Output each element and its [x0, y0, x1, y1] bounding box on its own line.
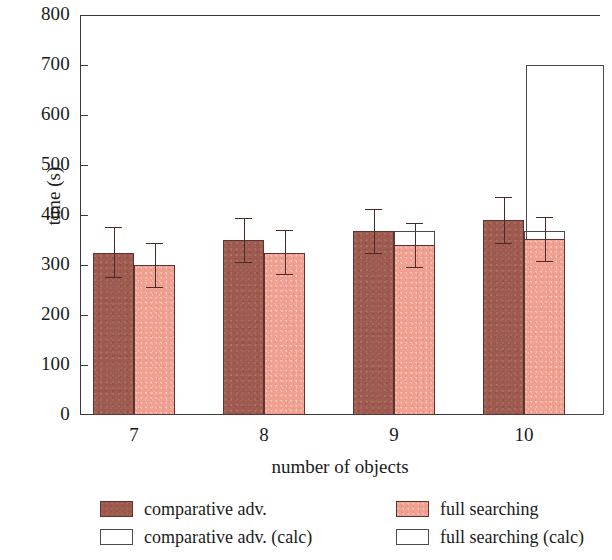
y-tick-mark [80, 315, 88, 316]
legend-entry[interactable]: comparative adv. (calc) [100, 528, 312, 546]
y-tick-mark [80, 15, 81, 23]
error-bar [362, 209, 386, 254]
y-tick-label: 700 [18, 53, 70, 75]
bar-full-searching-calc-outline [394, 231, 435, 245]
legend-label: full searching [440, 500, 538, 518]
error-bar-cap-top [146, 243, 163, 244]
x-tick-label: 8 [234, 424, 294, 446]
y-tick-label: 0 [18, 403, 70, 425]
error-bar [273, 230, 297, 275]
legend-entry[interactable]: comparative adv. [100, 500, 267, 518]
error-bar-cap-top [276, 230, 293, 231]
error-bar [232, 218, 256, 263]
error-bar-cap-bottom [406, 267, 423, 268]
error-bar [102, 227, 126, 278]
error-bar-cap-top [105, 227, 122, 228]
bar-full-searching [524, 239, 565, 415]
error-bar-cap-top [365, 209, 382, 210]
bar-full-searching [134, 265, 175, 415]
error-bar-cap-bottom [146, 287, 163, 288]
bar-full-searching [394, 245, 435, 415]
error-bar-stem [114, 227, 115, 278]
y-tick-mark [80, 215, 88, 216]
y-tick-mark [80, 165, 88, 166]
legend-swatch-open [100, 529, 133, 545]
error-bar-cap-bottom [536, 261, 553, 262]
error-bar-cap-top [406, 223, 423, 224]
y-tick-mark [80, 65, 88, 66]
y-tick-label: 400 [18, 203, 70, 225]
error-bar-cap-bottom [276, 274, 293, 275]
y-tick-mark [80, 115, 88, 116]
y-tick-label: 100 [18, 353, 70, 375]
error-bar-cap-top [235, 218, 252, 219]
bar-comparative-adv [353, 231, 394, 415]
error-bar-cap-top [495, 197, 512, 198]
legend-swatch-light [396, 501, 429, 517]
legend-swatch-dark [100, 501, 133, 517]
error-bar-stem [244, 218, 245, 263]
error-bar [492, 197, 516, 244]
error-bar-stem [374, 209, 375, 254]
chart-legend: comparative adv.full searchingcomparativ… [100, 500, 600, 556]
error-bar-stem [415, 223, 416, 268]
error-bar-stem [155, 243, 156, 288]
error-bar [143, 243, 167, 288]
y-tick-label: 200 [18, 303, 70, 325]
bar-comparative-adv [483, 220, 524, 415]
x-tick-label: 7 [104, 424, 164, 446]
bar-full-searching [264, 253, 305, 416]
x-tick-label: 9 [364, 424, 424, 446]
x-axis-label: number of objects [80, 456, 600, 478]
error-bar [403, 223, 427, 268]
x-tick-label: 10 [494, 424, 554, 446]
y-tick-label: 500 [18, 153, 70, 175]
error-bar-cap-bottom [495, 243, 512, 244]
error-bar-stem [285, 230, 286, 275]
legend-entry[interactable]: full searching (calc) [396, 528, 584, 546]
y-tick-mark [80, 407, 81, 415]
bar-comparative-adv [223, 240, 264, 415]
bar-comparative-adv-calc-outline [526, 65, 604, 239]
error-bar-cap-bottom [365, 253, 382, 254]
legend-label: comparative adv. [144, 500, 267, 518]
bar-chart-figure: time (s) 800700600500400300200100078910 … [0, 0, 612, 560]
legend-label: comparative adv. (calc) [144, 528, 312, 546]
y-tick-label: 600 [18, 103, 70, 125]
error-bar-stem [504, 197, 505, 244]
error-bar-cap-bottom [105, 277, 122, 278]
y-tick-label: 800 [18, 3, 70, 25]
legend-label: full searching (calc) [440, 528, 584, 546]
y-tick-label: 300 [18, 253, 70, 275]
y-tick-mark [80, 265, 88, 266]
legend-swatch-open [396, 529, 429, 545]
error-bar-cap-bottom [235, 262, 252, 263]
y-tick-mark [80, 365, 88, 366]
legend-entry[interactable]: full searching [396, 500, 538, 518]
